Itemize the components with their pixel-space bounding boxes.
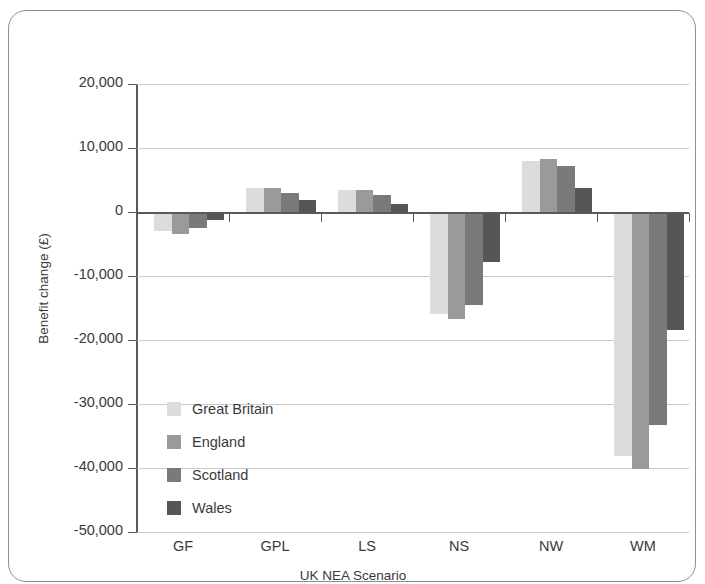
y-tick-label: -50,000	[31, 522, 123, 538]
bar	[154, 212, 172, 231]
y-tick-mark	[128, 84, 137, 86]
y-tick-mark	[128, 468, 137, 470]
x-tick-label: GF	[138, 538, 228, 554]
legend-label: England	[192, 434, 245, 450]
bar	[483, 212, 501, 262]
bar	[448, 212, 466, 319]
bar	[373, 195, 391, 212]
x-tick-mark	[597, 213, 598, 222]
bar	[557, 166, 575, 212]
x-tick-mark	[229, 213, 230, 222]
bar	[356, 190, 374, 212]
x-tick-mark	[689, 213, 690, 222]
bar	[246, 188, 264, 212]
bar	[391, 204, 409, 212]
gridline	[137, 84, 689, 85]
legend-swatch-icon	[167, 435, 181, 449]
legend-label: Scotland	[192, 467, 248, 483]
x-tick-mark	[505, 213, 506, 222]
gridline	[137, 148, 689, 149]
legend-item: Great Britain	[167, 392, 273, 425]
bar	[172, 212, 190, 234]
bar	[632, 212, 650, 469]
x-tick-mark	[137, 213, 138, 222]
bar	[540, 159, 558, 212]
bar	[281, 193, 299, 212]
bar	[465, 212, 483, 305]
bar	[430, 212, 448, 314]
legend-item: Scotland	[167, 458, 273, 491]
x-tick-label: LS	[322, 538, 412, 554]
x-tick-mark	[321, 213, 322, 222]
y-tick-mark	[128, 404, 137, 406]
legend-label: Great Britain	[192, 401, 273, 417]
y-tick-mark	[128, 276, 137, 278]
x-tick-label: WM	[598, 538, 688, 554]
x-tick-label: GPL	[230, 538, 320, 554]
y-tick-label: 20,000	[31, 74, 123, 90]
y-tick-label: -30,000	[31, 394, 123, 410]
legend-swatch-icon	[167, 468, 181, 482]
x-tick-mark	[413, 213, 414, 222]
x-axis-title: UK NEA Scenario	[9, 568, 696, 582]
bar	[338, 190, 356, 212]
chart-legend: Great BritainEnglandScotlandWales	[167, 392, 273, 524]
legend-swatch-icon	[167, 402, 181, 416]
x-tick-label: NS	[414, 538, 504, 554]
figure-frame: 20,00010,0000-10,000-20,000-30,000-40,00…	[8, 10, 696, 582]
legend-item: England	[167, 425, 273, 458]
y-axis-title: Benefit change (£)	[36, 189, 51, 389]
bar	[614, 212, 632, 456]
bar	[264, 188, 282, 212]
bar	[522, 161, 540, 212]
legend-item: Wales	[167, 491, 273, 524]
bar	[299, 200, 317, 212]
legend-label: Wales	[192, 500, 232, 516]
x-tick-label: NW	[506, 538, 596, 554]
y-tick-label: -40,000	[31, 458, 123, 474]
y-tick-label: 10,000	[31, 138, 123, 154]
gridline	[137, 532, 689, 533]
gridline	[137, 276, 689, 277]
bar	[189, 212, 207, 228]
bar	[667, 212, 685, 330]
y-tick-mark	[128, 212, 137, 214]
bar	[575, 188, 593, 212]
bar	[649, 212, 667, 425]
gridline	[137, 340, 689, 341]
y-tick-mark	[128, 148, 137, 150]
y-tick-mark	[128, 340, 137, 342]
legend-swatch-icon	[167, 501, 181, 515]
y-tick-mark	[128, 532, 137, 534]
